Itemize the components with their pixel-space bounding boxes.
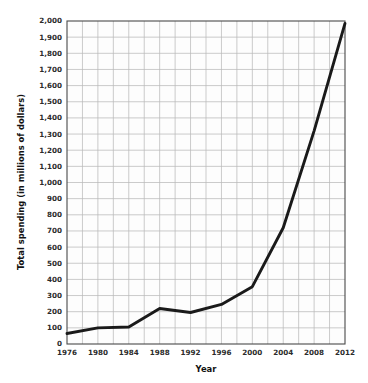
y-tick-label: 200 xyxy=(47,307,62,316)
y-tick-label: 400 xyxy=(47,275,62,284)
y-tick-label: 1,900 xyxy=(39,33,62,42)
y-tick-label: 300 xyxy=(47,291,62,300)
y-tick-label: 1,800 xyxy=(39,49,62,58)
y-tick-label: 1,300 xyxy=(39,130,62,139)
x-tick-label: 1988 xyxy=(150,348,170,357)
y-tick-label: 600 xyxy=(47,243,62,252)
y-tick-label: 1,200 xyxy=(39,146,62,155)
x-tick-label: 1984 xyxy=(119,348,139,357)
y-tick-label: 1,600 xyxy=(39,81,62,90)
y-tick-label: 900 xyxy=(47,194,62,203)
y-tick-label: 2,000 xyxy=(39,16,62,25)
chart-canvas: 01002003004005006007008009001,0001,1001,… xyxy=(0,0,368,383)
line-chart: 01002003004005006007008009001,0001,1001,… xyxy=(0,0,368,383)
x-axis-title: Year xyxy=(195,364,218,374)
y-axis-title: Total spending (in millions of dollars) xyxy=(16,94,26,270)
y-tick-label: 700 xyxy=(47,226,62,235)
x-tick-label: 1996 xyxy=(211,348,231,357)
x-tick-label: 2008 xyxy=(304,348,324,357)
y-tick-label: 800 xyxy=(47,210,62,219)
x-tick-label: 2012 xyxy=(335,348,355,357)
x-tick-label: 2004 xyxy=(273,348,293,357)
y-tick-label: 100 xyxy=(47,323,62,332)
y-tick-label: 1,400 xyxy=(39,113,62,122)
y-tick-label: 1,000 xyxy=(39,178,62,187)
y-tick-label: 1,700 xyxy=(39,65,62,74)
x-tick-label: 1980 xyxy=(88,348,108,357)
y-tick-label: 1,500 xyxy=(39,97,62,106)
x-tick-label: 2000 xyxy=(242,348,262,357)
y-tick-label: 500 xyxy=(47,259,62,268)
x-tick-label: 1992 xyxy=(181,348,201,357)
x-tick-label: 1976 xyxy=(57,348,77,357)
y-tick-label: 1,100 xyxy=(39,162,62,171)
